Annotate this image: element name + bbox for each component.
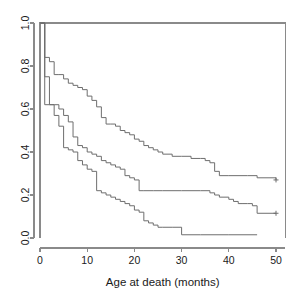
- y-tick-label: 0.2: [19, 188, 31, 203]
- y-tick-label: 0.0: [19, 231, 31, 246]
- x-tick-label: 30: [176, 254, 188, 266]
- y-tick-label: 1.0: [19, 16, 31, 31]
- x-tick-label: 0: [37, 254, 43, 266]
- x-tick-label: 40: [223, 254, 235, 266]
- y-tick-label: 0.4: [19, 145, 31, 160]
- kaplan-meier-chart: 010203040500.00.20.40.60.81.0Age at deat…: [0, 0, 300, 298]
- km-curve-upper-curve: [40, 23, 276, 180]
- y-tick-label: 0.8: [19, 59, 31, 74]
- x-tick-label: 50: [270, 254, 282, 266]
- x-axis-title: Age at death (months): [106, 276, 220, 288]
- x-tick-label: 20: [129, 254, 141, 266]
- plot-box-border: [40, 23, 285, 238]
- x-tick-label: 10: [81, 254, 93, 266]
- km-curve-middle-curve: [40, 23, 276, 213]
- y-tick-label: 0.6: [19, 102, 31, 117]
- survival-plot-figure: 010203040500.00.20.40.60.81.0Age at deat…: [0, 0, 300, 298]
